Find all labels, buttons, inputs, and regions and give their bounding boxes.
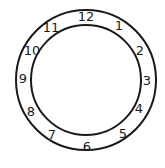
hour-numeral-10: 10 [24, 43, 41, 58]
hour-numeral-9: 9 [19, 71, 27, 86]
hour-numeral-11: 11 [43, 20, 60, 35]
hour-numeral-6: 6 [83, 139, 91, 154]
hour-numeral-1: 1 [115, 18, 123, 33]
hour-numeral-4: 4 [135, 101, 143, 116]
clock-face: 121234567891011 [0, 0, 165, 168]
hour-numeral-3: 3 [143, 73, 151, 88]
hour-numeral-8: 8 [27, 104, 35, 119]
hour-numeral-5: 5 [119, 126, 127, 141]
outer-ring [16, 10, 156, 150]
hour-numeral-12: 12 [78, 9, 95, 24]
hour-numeral-2: 2 [136, 43, 144, 58]
hour-numeral-7: 7 [48, 127, 56, 142]
inner-ring [31, 25, 141, 135]
